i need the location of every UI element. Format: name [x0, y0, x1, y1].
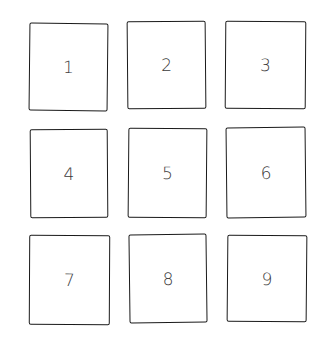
grid-box-7: 7 — [29, 235, 110, 325]
box-label: 6 — [260, 162, 271, 182]
grid-box-9: 9 — [227, 235, 308, 323]
grid-diagram: 1 2 3 4 5 6 7 8 9 — [0, 0, 321, 338]
grid-box-8: 8 — [128, 234, 207, 324]
box-label: 5 — [162, 163, 173, 183]
grid-box-4: 4 — [30, 129, 109, 219]
grid-box-6: 6 — [226, 127, 307, 219]
box-label: 1 — [63, 57, 74, 77]
box-label: 8 — [162, 268, 173, 288]
box-label: 3 — [260, 55, 271, 75]
box-label: 2 — [161, 55, 172, 75]
box-label: 4 — [64, 163, 75, 183]
box-label: 7 — [64, 270, 75, 290]
grid-box-5: 5 — [128, 128, 208, 219]
box-label: 9 — [261, 268, 272, 288]
grid-box-1: 1 — [29, 23, 109, 112]
grid-box-2: 2 — [127, 21, 207, 110]
grid-box-3: 3 — [225, 21, 307, 110]
